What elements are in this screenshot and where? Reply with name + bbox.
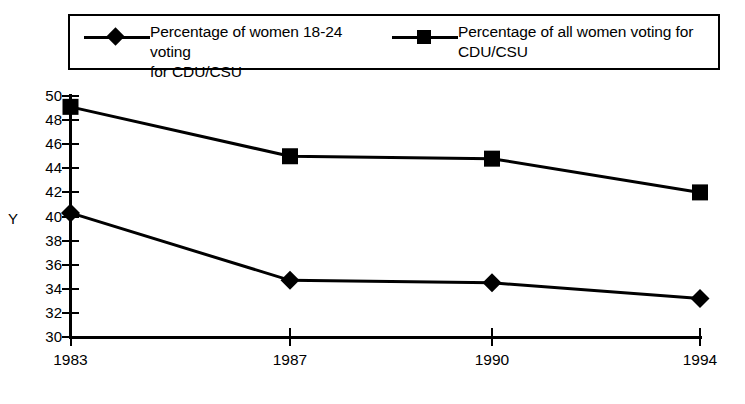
series-line-all-women	[71, 107, 701, 193]
diamond-marker-icon	[281, 271, 300, 290]
square-marker-icon	[484, 151, 500, 167]
square-marker-icon	[282, 148, 298, 164]
series-layer	[0, 0, 745, 404]
series-line-women-18-24	[71, 213, 701, 299]
square-marker-icon	[63, 99, 79, 115]
diamond-marker-icon	[61, 203, 80, 222]
diamond-marker-icon	[483, 273, 502, 292]
diamond-marker-icon	[691, 289, 710, 308]
chart-figure: Percentage of women 18-24 voting for CDU…	[0, 0, 745, 404]
plot-area: Y 3032343638404244464850 198319871990199…	[0, 0, 745, 404]
square-marker-icon	[692, 184, 708, 200]
